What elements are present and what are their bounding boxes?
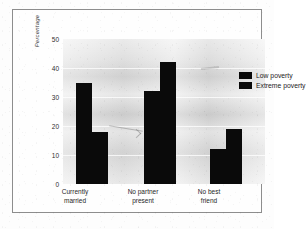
legend-item-low-poverty: Low poverty [239, 72, 274, 79]
x-axis-label-no-partner-present: No partner present [110, 188, 176, 205]
x-axis-label-line-2: friend [176, 197, 242, 206]
bar-no-best-friend-extreme-poverty [226, 129, 242, 184]
bar-no-best-friend-low-poverty [210, 149, 226, 184]
x-axis-label-line-1: Currently [42, 188, 108, 197]
plot-area: Low poverty Extreme poverty [63, 39, 265, 184]
chart-frame: Percentage 0 10 20 30 40 50 [12, 9, 262, 213]
y-axis-title: Percentage [34, 1, 40, 61]
figure-root: Percentage 0 10 20 30 40 50 [0, 0, 274, 229]
legend-swatch-low-poverty [239, 72, 252, 79]
legend-label-low-poverty: Low poverty [256, 72, 274, 79]
x-axis-label-no-best-friend: No best friend [176, 188, 242, 205]
y-tick-label-30: 30 [43, 94, 59, 101]
y-tick-label-40: 40 [43, 65, 59, 72]
legend-label-extreme-poverty: Extreme poverty [256, 82, 274, 89]
y-tick-label-50: 50 [43, 36, 59, 43]
x-axis-label-line-2: present [110, 197, 176, 206]
x-axis-label-line-1: No partner [110, 188, 176, 197]
x-axis-label-line-2: married [42, 197, 108, 206]
bar-currently-married-extreme-poverty [92, 132, 108, 184]
bar-no-partner-present-low-poverty [144, 91, 160, 184]
y-axis-ticks: 0 10 20 30 40 50 [41, 39, 63, 184]
legend-swatch-extreme-poverty [239, 82, 252, 89]
bar-currently-married-low-poverty [76, 83, 92, 185]
x-axis-label-line-1: No best [176, 188, 242, 197]
legend: Low poverty Extreme poverty [239, 72, 274, 92]
y-tick-label-0: 0 [43, 181, 59, 188]
legend-item-extreme-poverty: Extreme poverty [239, 82, 274, 89]
y-tick-label-20: 20 [43, 123, 59, 130]
bar-no-partner-present-extreme-poverty [160, 62, 176, 184]
y-tick-label-10: 10 [43, 152, 59, 159]
x-axis-label-currently-married: Currently married [42, 188, 108, 205]
